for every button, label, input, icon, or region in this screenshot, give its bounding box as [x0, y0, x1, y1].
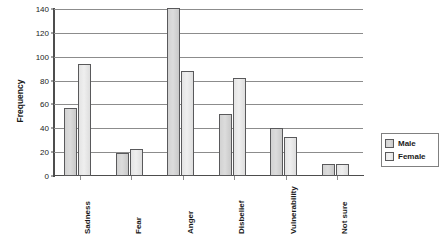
x-axis-tick	[131, 176, 132, 180]
bar-female-fear	[130, 149, 143, 176]
y-axis-tick-label: 100	[36, 52, 49, 61]
plot-frame: 020406080100120140	[54, 9, 363, 176]
x-axis-tick	[337, 176, 338, 180]
legend: Male Female	[381, 133, 439, 167]
x-axis-tick	[80, 176, 81, 180]
legend-swatch-female-icon	[385, 152, 394, 161]
y-axis-tick-label: 20	[40, 148, 49, 157]
x-axis-label-sadness: Sadness	[83, 201, 92, 234]
bar-female-vulnerability	[284, 137, 297, 176]
bar-male-fear	[116, 153, 129, 176]
x-axis-tick	[234, 176, 235, 180]
x-axis-label-vulnerability: Vulnerability	[289, 186, 298, 234]
y-axis-tick-label: 40	[40, 124, 49, 133]
bar-chart: Frequency 020406080100120140 SadnessFear…	[0, 0, 443, 239]
bar-male-sadness	[64, 108, 77, 176]
bar-female-not-sure	[336, 164, 349, 176]
x-axis-label-fear: Fear	[134, 217, 143, 234]
bar-male-disbelief	[219, 114, 232, 176]
y-axis-tick-label: 60	[40, 100, 49, 109]
bar-female-sadness	[78, 64, 91, 176]
plot-area: 020406080100120140	[54, 9, 363, 176]
y-axis-tick-label: 140	[36, 5, 49, 14]
x-axis-tick	[183, 176, 184, 180]
bar-female-disbelief	[233, 78, 246, 176]
legend-swatch-male-icon	[385, 139, 394, 148]
legend-label-male: Male	[398, 139, 416, 148]
legend-item-male: Male	[385, 137, 435, 150]
x-axis-label-disbelief: Disbelief	[237, 201, 246, 234]
bar-male-not-sure	[322, 164, 335, 176]
bar-male-anger	[167, 8, 180, 176]
y-axis-tick-label: 120	[36, 28, 49, 37]
bar-female-anger	[181, 71, 194, 176]
y-axis-tick-label: 80	[40, 76, 49, 85]
x-axis-label-not-sure: Not sure	[340, 202, 349, 234]
bar-male-vulnerability	[270, 128, 283, 176]
legend-item-female: Female	[385, 150, 435, 163]
bars-layer	[54, 9, 363, 176]
y-axis-title: Frequency	[15, 53, 25, 149]
x-axis-tick	[286, 176, 287, 180]
y-axis-tick-label: 0	[45, 172, 49, 181]
legend-label-female: Female	[398, 152, 426, 161]
x-axis-label-anger: Anger	[186, 211, 195, 234]
